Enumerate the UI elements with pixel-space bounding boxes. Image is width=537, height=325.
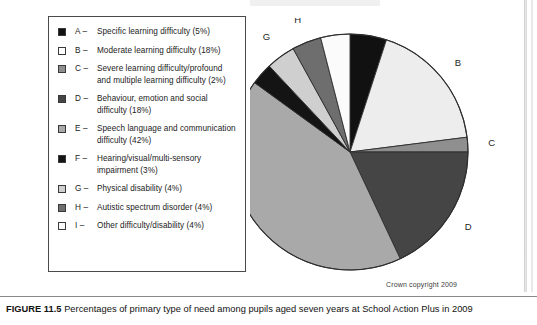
- legend-item-a: A – Specific learning difficulty (5%): [58, 26, 237, 38]
- copyright-credit: Crown copyright 2009: [386, 281, 457, 288]
- legend-key-f: F –: [75, 153, 97, 165]
- pie-chart: ABCDEFGHI: [250, 18, 520, 274]
- legend-item-g: G – Physical disability (4%): [58, 183, 237, 195]
- figure-page: A – Specific learning difficulty (5%) B …: [0, 0, 537, 325]
- legend-item-i: I – Other difficulty/disability (4%): [58, 220, 237, 232]
- scan-artifact-top: [250, 0, 380, 6]
- legend-label-a: Specific learning difficulty (5%): [97, 26, 237, 38]
- legend-item-h: H – Autistic spectrum disorder (4%): [58, 202, 237, 214]
- legend-label-f: Hearing/visual/multi-sensory impairment …: [97, 153, 237, 176]
- legend-key-e: E –: [75, 123, 97, 135]
- legend-key-b: B –: [75, 45, 97, 57]
- figure-number: FIGURE 11.5: [6, 304, 62, 314]
- chart-legend: A – Specific learning difficulty (5%) B …: [48, 16, 246, 272]
- legend-item-b: B – Moderate learning difficulty (18%): [58, 45, 237, 57]
- pie-label-d: D: [465, 221, 472, 232]
- legend-key-h: H –: [75, 202, 97, 214]
- legend-item-d: D – Behaviour, emotion and social diffic…: [58, 93, 237, 116]
- legend-swatch-f: [58, 155, 66, 163]
- legend-label-b: Moderate learning difficulty (18%): [97, 45, 237, 57]
- legend-key-c: C –: [75, 63, 97, 75]
- pie-label-b: B: [455, 57, 461, 68]
- legend-swatch-g: [58, 185, 66, 193]
- legend-swatch-a: [58, 28, 66, 36]
- legend-swatch-e: [58, 125, 66, 133]
- legend-label-i: Other difficulty/disability (4%): [97, 220, 237, 232]
- legend-item-c: C – Severe learning difficulty/profound …: [58, 63, 237, 86]
- legend-key-a: A –: [75, 26, 97, 38]
- figure-caption: FIGURE 11.5 Percentages of primary type …: [6, 303, 531, 316]
- legend-label-c: Severe learning difficulty/profound and …: [97, 63, 237, 86]
- page-edge-shadow: [524, 0, 527, 292]
- pie-label-g: G: [263, 31, 270, 42]
- legend-swatch-b: [58, 47, 66, 55]
- legend-label-h: Autistic spectrum disorder (4%): [97, 202, 237, 214]
- legend-key-i: I –: [75, 220, 97, 232]
- pie-label-h: H: [294, 18, 301, 25]
- caption-divider: [0, 296, 537, 297]
- legend-key-g: G –: [75, 183, 97, 195]
- legend-item-f: F – Hearing/visual/multi-sensory impairm…: [58, 153, 237, 176]
- legend-swatch-d: [58, 95, 66, 103]
- pie-label-a: A: [369, 18, 376, 19]
- legend-swatch-c: [58, 65, 66, 73]
- figure-caption-text: Percentages of primary type of need amon…: [64, 304, 473, 314]
- legend-swatch-i: [58, 222, 66, 230]
- legend-swatch-h: [58, 204, 66, 212]
- page-edge-shadow-outer: [531, 0, 533, 292]
- pie-label-c: C: [488, 137, 495, 148]
- legend-label-d: Behaviour, emotion and social difficulty…: [97, 93, 237, 116]
- legend-item-e: E – Speech language and communication di…: [58, 123, 237, 146]
- legend-key-d: D –: [75, 93, 97, 105]
- legend-label-g: Physical disability (4%): [97, 183, 237, 195]
- pie-chart-svg: ABCDEFGHI: [250, 18, 520, 274]
- legend-label-e: Speech language and communication diffic…: [97, 123, 237, 146]
- pie-slice-group: [250, 34, 468, 270]
